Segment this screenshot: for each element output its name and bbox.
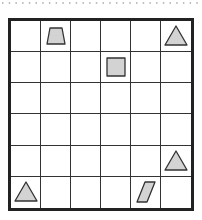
grid-cell-r1-c5 [161, 52, 191, 83]
grid-cell-r3-c1 [41, 114, 71, 145]
grid-cell-r4-c3 [101, 146, 131, 177]
triangle-icon [163, 23, 189, 49]
grid-cell-r2-c5 [161, 83, 191, 114]
grid-cell-r4-c5 [161, 146, 191, 177]
grid-cell-r2-c4 [131, 83, 161, 114]
grid-cell-r4-c2 [71, 146, 101, 177]
trapezoid-icon [43, 23, 69, 49]
grid-cell-r1-c3 [101, 52, 131, 83]
grid-cell-r0-c4 [131, 21, 161, 52]
grid-cells [11, 21, 191, 208]
grid-cell-r0-c0 [11, 21, 41, 52]
grid-cell-r5-c5 [161, 177, 191, 208]
grid-cell-r3-c4 [131, 114, 161, 145]
grid-cell-r0-c3 [101, 21, 131, 52]
grid-cell-r0-c2 [71, 21, 101, 52]
grid-cell-r5-c2 [71, 177, 101, 208]
grid-cell-r5-c4 [131, 177, 161, 208]
square-icon [103, 54, 129, 80]
grid-cell-r0-c1 [41, 21, 71, 52]
grid-cell-r3-c2 [71, 114, 101, 145]
grid-cell-r2-c1 [41, 83, 71, 114]
grid-cell-r4-c4 [131, 146, 161, 177]
grid-cell-r1-c4 [131, 52, 161, 83]
grid-cell-r2-c0 [11, 83, 41, 114]
triangle-icon [163, 148, 189, 174]
grid-cell-r1-c1 [41, 52, 71, 83]
shape-grid [8, 18, 194, 211]
grid-cell-r2-c3 [101, 83, 131, 114]
grid-cell-r3-c5 [161, 114, 191, 145]
grid-cell-r1-c0 [11, 52, 41, 83]
triangle-icon [13, 179, 39, 205]
grid-cell-r5-c3 [101, 177, 131, 208]
grid-cell-r3-c3 [101, 114, 131, 145]
dotted-top-border [0, 0, 202, 6]
grid-cell-r2-c2 [71, 83, 101, 114]
grid-cell-r0-c5 [161, 21, 191, 52]
grid-cell-r4-c1 [41, 146, 71, 177]
parallelogram-icon [133, 179, 159, 205]
grid-cell-r5-c1 [41, 177, 71, 208]
grid-cell-r4-c0 [11, 146, 41, 177]
grid-cell-r1-c2 [71, 52, 101, 83]
grid-cell-r3-c0 [11, 114, 41, 145]
grid-cell-r5-c0 [11, 177, 41, 208]
